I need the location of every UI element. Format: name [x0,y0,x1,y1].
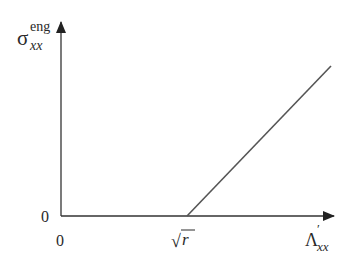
x-axis-label-prime: ′ [317,221,320,236]
x-tick-sqrt-r-radical: √ [171,231,181,251]
y-axis-label-subscript: xx [29,38,43,53]
y-axis-label-superscript: eng [30,19,50,34]
data-line [187,66,331,216]
stress-stretch-diagram: σ eng xx 0 0 √ r Λ ′ xx [0,0,356,258]
x-origin-label: 0 [56,232,64,249]
x-axis-label-subscript: xx [316,239,329,254]
x-tick-sqrt-r-symbol: r [182,230,189,249]
y-axis-label: σ [17,26,28,50]
y-origin-label: 0 [41,208,49,225]
